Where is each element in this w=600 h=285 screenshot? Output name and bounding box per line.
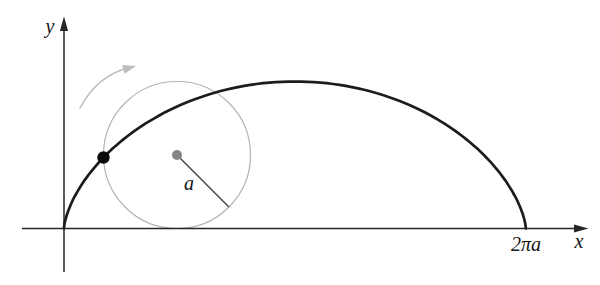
trace-point-dot [97, 151, 109, 163]
rotation-arrowhead-icon [122, 62, 137, 74]
x-intercept-label: 2πa [511, 233, 541, 255]
y-axis-arrowhead-icon [60, 17, 68, 32]
cycloid-figure: y x 2πa a [0, 0, 600, 285]
cycloid-curve [64, 82, 526, 229]
circle-center-dot [172, 150, 182, 160]
x-axis-label: x [574, 230, 584, 252]
radius-label: a [184, 172, 194, 194]
rotation-arrow [80, 68, 128, 108]
y-axis-label: y [44, 15, 55, 38]
figure-canvas: y x 2πa a [0, 0, 600, 285]
